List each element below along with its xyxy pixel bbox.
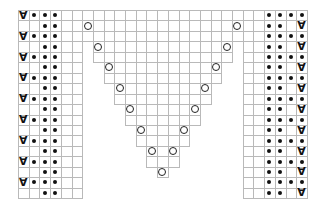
purl-dot-icon bbox=[39, 188, 50, 198]
slip-glyph: ∀ bbox=[19, 72, 28, 83]
dot-icon bbox=[32, 160, 36, 164]
dot-icon bbox=[43, 170, 47, 174]
dot-icon bbox=[43, 180, 47, 184]
purl-dot-icon bbox=[50, 83, 61, 93]
purl-dot-icon bbox=[275, 156, 286, 166]
slip-stitch-icon: ∀ bbox=[296, 125, 307, 135]
dot-icon bbox=[278, 118, 282, 122]
dot-icon bbox=[267, 149, 271, 153]
purl-dot-icon bbox=[275, 177, 286, 187]
purl-dot-icon bbox=[50, 52, 61, 62]
dot-icon bbox=[53, 97, 57, 101]
purl-dot-icon bbox=[50, 125, 61, 135]
dot-icon bbox=[53, 76, 57, 80]
slip-stitch-icon: ∀ bbox=[296, 188, 307, 198]
triangle-cell bbox=[189, 115, 201, 126]
purl-dot-icon bbox=[275, 31, 286, 41]
dot-icon bbox=[53, 55, 57, 59]
dot-icon bbox=[53, 13, 57, 17]
dot-icon bbox=[53, 34, 57, 38]
purl-dot-icon bbox=[275, 146, 286, 156]
slip-stitch-icon: ∀ bbox=[18, 10, 29, 20]
slip-stitch-icon: ∀ bbox=[296, 83, 307, 93]
purl-dot-icon bbox=[50, 188, 61, 198]
triangle-cell bbox=[211, 73, 222, 84]
dot-icon bbox=[278, 107, 282, 111]
purl-dot-icon bbox=[50, 104, 61, 114]
dot-icon bbox=[53, 86, 57, 90]
circle-icon bbox=[105, 63, 113, 71]
purl-dot-icon bbox=[264, 83, 275, 93]
purl-dot-icon bbox=[286, 135, 297, 145]
purl-dot-icon bbox=[275, 135, 286, 145]
dot-icon bbox=[300, 97, 304, 101]
circle-icon bbox=[169, 147, 177, 155]
slip-stitch-icon: ∀ bbox=[18, 177, 29, 187]
dot-icon bbox=[300, 118, 304, 122]
dot-icon bbox=[53, 118, 57, 122]
purl-dot-icon bbox=[275, 125, 286, 135]
triangle-cell bbox=[168, 156, 180, 168]
purl-dot-icon bbox=[275, 83, 286, 93]
purl-dot-icon bbox=[286, 177, 297, 187]
purl-dot-icon bbox=[264, 156, 275, 166]
slip-glyph: ∀ bbox=[297, 166, 306, 177]
dot-icon bbox=[43, 160, 47, 164]
dot-icon bbox=[43, 139, 47, 143]
purl-dot-icon bbox=[275, 62, 286, 72]
dot-icon bbox=[267, 13, 271, 17]
dot-icon bbox=[289, 97, 293, 101]
purl-dot-icon bbox=[50, 31, 61, 41]
dot-icon bbox=[43, 55, 47, 59]
purl-dot-icon bbox=[29, 177, 40, 187]
dot-icon bbox=[43, 149, 47, 153]
circle-icon bbox=[137, 126, 145, 134]
dot-icon bbox=[289, 139, 293, 143]
purl-dot-icon bbox=[50, 10, 61, 20]
triangle-cell bbox=[232, 31, 244, 42]
slip-glyph: ∀ bbox=[297, 104, 306, 115]
purl-dot-icon bbox=[39, 104, 50, 114]
dot-icon bbox=[43, 34, 47, 38]
purl-dot-icon bbox=[50, 115, 61, 125]
purl-dot-icon bbox=[50, 167, 61, 177]
purl-dot-icon bbox=[275, 41, 286, 51]
dot-icon bbox=[267, 128, 271, 132]
knitting-chart: ∀∀∀∀∀∀∀∀∀∀∀∀∀∀∀∀∀∀ bbox=[0, 0, 324, 205]
slip-glyph: ∀ bbox=[19, 52, 28, 63]
dot-icon bbox=[32, 34, 36, 38]
dot-icon bbox=[278, 45, 282, 49]
purl-dot-icon bbox=[264, 177, 275, 187]
purl-dot-icon bbox=[39, 73, 50, 83]
purl-dot-icon bbox=[264, 188, 275, 198]
purl-dot-icon bbox=[264, 135, 275, 145]
yarn-over-circle-icon bbox=[200, 83, 211, 93]
purl-dot-icon bbox=[50, 135, 61, 145]
circle-icon bbox=[126, 105, 134, 113]
purl-dot-icon bbox=[39, 135, 50, 145]
dot-icon bbox=[53, 107, 57, 111]
purl-dot-icon bbox=[29, 10, 40, 20]
purl-dot-icon bbox=[50, 41, 61, 51]
slip-stitch-icon: ∀ bbox=[18, 94, 29, 104]
purl-dot-icon bbox=[29, 94, 40, 104]
purl-dot-icon bbox=[50, 177, 61, 187]
circle-icon bbox=[116, 84, 124, 92]
purl-dot-icon bbox=[39, 62, 50, 72]
dot-icon bbox=[53, 139, 57, 143]
purl-dot-icon bbox=[50, 62, 61, 72]
dot-icon bbox=[267, 170, 271, 174]
dot-icon bbox=[32, 76, 36, 80]
circle-icon bbox=[191, 105, 199, 113]
slip-glyph: ∀ bbox=[19, 93, 28, 104]
dot-icon bbox=[43, 65, 47, 69]
purl-dot-icon bbox=[275, 115, 286, 125]
circle-icon bbox=[84, 22, 92, 30]
dot-icon bbox=[43, 45, 47, 49]
slip-stitch-icon: ∀ bbox=[296, 146, 307, 156]
dot-icon bbox=[53, 191, 57, 195]
dot-icon bbox=[300, 160, 304, 164]
purl-dot-icon bbox=[264, 41, 275, 51]
yarn-over-circle-icon bbox=[211, 62, 222, 72]
dot-icon bbox=[53, 149, 57, 153]
